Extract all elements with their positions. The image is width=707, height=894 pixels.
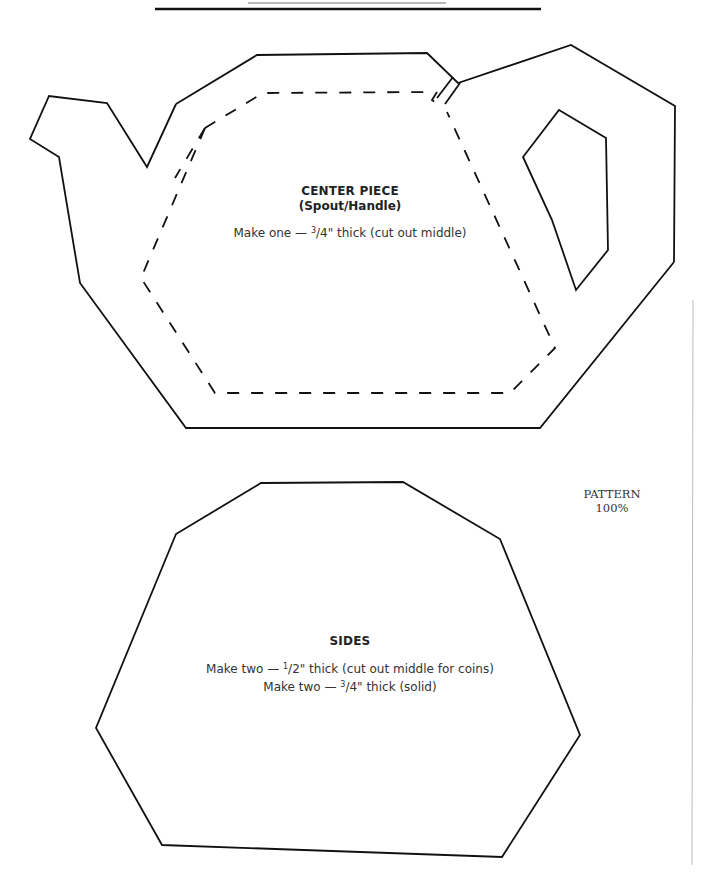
sides-label: SIDES Make two — 1/2" thick (cut out mid… xyxy=(195,634,505,695)
center-piece-label: CENTER PIECE (Spout/Handle) Make one — 3… xyxy=(195,184,505,241)
center-piece-instruction: Make one — 3/4" thick (cut out middle) xyxy=(195,223,505,241)
sides-instruction-2: Make two — 3/4" thick (solid) xyxy=(195,677,505,695)
center-piece-cut-line xyxy=(141,92,555,393)
page-edge-line xyxy=(692,300,693,865)
pattern-note-scale: 100% xyxy=(562,501,662,515)
center-piece-title: CENTER PIECE xyxy=(195,184,505,199)
pattern-drawing xyxy=(0,0,707,894)
handle-cutout xyxy=(523,110,608,290)
center-piece-subtitle: (Spout/Handle) xyxy=(195,199,505,214)
pattern-note-label: PATTERN xyxy=(562,487,662,501)
pattern-scale-note: PATTERN 100% xyxy=(562,487,662,515)
sides-title: SIDES xyxy=(195,634,505,649)
sides-instruction-1: Make two — 1/2" thick (cut out middle fo… xyxy=(195,659,505,677)
